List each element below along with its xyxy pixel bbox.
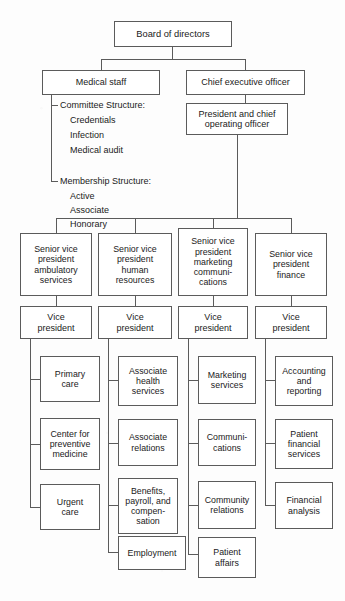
committee-structure-heading: Committee Structure: xyxy=(60,101,145,110)
node-president-coo[interactable]: President and chiefoperating officer xyxy=(186,103,288,135)
node-label: Chief executive officer xyxy=(189,77,302,87)
node-label: Urgentcare xyxy=(43,497,97,517)
connector-c2-stub-3 xyxy=(108,505,118,506)
connector-c4-stub-3 xyxy=(265,505,275,506)
node-patient-financial-services[interactable]: Patientfinancialservices xyxy=(275,419,333,469)
connector-to-medical-staff xyxy=(101,59,102,70)
node-label: Accountingandreporting xyxy=(278,366,330,397)
connector-c3-stub-4 xyxy=(188,554,198,555)
node-label: Vicepresident xyxy=(101,312,169,333)
connector-c4-stub-1 xyxy=(265,380,275,381)
connector-c4-stub-2 xyxy=(265,443,275,444)
connector-c3-stub-2 xyxy=(188,443,198,444)
connector-svp-drop-2 xyxy=(135,218,136,233)
org-chart: Board of directors Medical staff Chief e… xyxy=(0,0,345,601)
node-vp-ambulatory-services[interactable]: Vicepresident xyxy=(20,306,92,339)
node-vp-marketing-communications[interactable]: Vicepresident xyxy=(178,306,248,339)
node-board-of-directors[interactable]: Board of directors xyxy=(114,21,232,47)
node-label: Senior vicepresidenthumanresources xyxy=(101,244,169,285)
node-benefits-payroll-compensation[interactable]: Benefits,payroll, andcompen-sation xyxy=(118,478,178,534)
membership-item-active: Active xyxy=(70,192,95,201)
connector-c3-stub-1 xyxy=(188,380,198,381)
node-label: Vicepresident xyxy=(23,312,89,333)
connector-ceo-to-coo xyxy=(245,95,246,103)
connector-medical-staff-spine xyxy=(51,95,52,181)
node-label: Marketingservices xyxy=(201,370,253,390)
node-svp-ambulatory-services[interactable]: Senior vicepresidentambulatoryservices xyxy=(20,233,92,296)
node-marketing-services[interactable]: Marketingservices xyxy=(198,356,256,404)
node-label: President and chiefoperating officer xyxy=(189,109,285,130)
node-label: Associatehealthservices xyxy=(121,366,175,397)
node-label: Patientaffairs xyxy=(201,547,253,567)
committee-item-infection: Infection xyxy=(70,131,104,140)
node-svp-finance[interactable]: Senior vicepresidentfinance xyxy=(255,233,327,296)
node-associate-health-services[interactable]: Associatehealthservices xyxy=(118,356,178,406)
node-label: Senior vicepresidentambulatoryservices xyxy=(23,244,89,285)
node-label: Associaterelations xyxy=(121,432,175,452)
node-vp-finance[interactable]: Vicepresident xyxy=(255,306,327,339)
connector-c1-stub-2 xyxy=(30,444,40,445)
node-center-for-preventive-medicine[interactable]: Center forpreventivemedicine xyxy=(40,418,100,470)
committee-item-medical-audit: Medical audit xyxy=(70,146,123,155)
connector-c2-spine xyxy=(108,339,109,552)
node-communications[interactable]: Communi-cations xyxy=(198,419,256,466)
node-label: Financialanalysis xyxy=(278,495,330,515)
connector-c3-spine xyxy=(188,339,189,554)
connector-c2-stub-4 xyxy=(108,552,118,553)
connector-coo-stem xyxy=(237,135,238,218)
connector-c3-svp-to-vp xyxy=(213,296,214,306)
connector-c3-stub-3 xyxy=(188,505,198,506)
node-employment[interactable]: Employment xyxy=(118,536,186,570)
connector-svp-drop-3 xyxy=(213,218,214,228)
connector-to-ceo xyxy=(245,59,246,70)
connector-board-stem xyxy=(172,47,173,59)
connector-c2-stub-2 xyxy=(108,443,118,444)
membership-item-honorary: Honorary xyxy=(70,220,107,229)
node-label: Senior vicepresidentmarketingcommuni-cat… xyxy=(181,236,245,287)
node-urgent-care[interactable]: Urgentcare xyxy=(40,484,100,530)
node-community-relations[interactable]: Communityrelations xyxy=(198,481,256,529)
connector-c1-stub-3 xyxy=(30,507,40,508)
membership-item-associate: Associate xyxy=(70,206,109,215)
connector-membership-stub xyxy=(51,181,58,182)
node-label: Primarycare xyxy=(43,369,97,389)
connector-svp-drop-1 xyxy=(56,218,57,233)
node-label: Communityrelations xyxy=(201,495,253,515)
node-chief-executive-officer[interactable]: Chief executive officer xyxy=(186,70,305,95)
connector-c2-stub-1 xyxy=(108,380,118,381)
committee-item-credentials: Credentials xyxy=(70,116,116,125)
connector-c4-spine xyxy=(265,339,266,505)
connector-c4-svp-to-vp xyxy=(291,296,292,306)
node-svp-human-resources[interactable]: Senior vicepresidenthumanresources xyxy=(98,233,172,296)
node-svp-marketing-communications[interactable]: Senior vicepresidentmarketingcommuni-cat… xyxy=(178,228,248,296)
node-medical-staff[interactable]: Medical staff xyxy=(42,70,160,95)
connector-c1-svp-to-vp xyxy=(56,296,57,306)
node-label: Senior vicepresidentfinance xyxy=(258,249,324,280)
connector-c1-stub-1 xyxy=(30,379,40,380)
node-associate-relations[interactable]: Associaterelations xyxy=(118,419,178,466)
node-label: Benefits,payroll, andcompen-sation xyxy=(121,486,175,527)
node-label: Vicepresident xyxy=(181,312,245,333)
connector-svp-drop-4 xyxy=(291,218,292,233)
node-label: Employment xyxy=(121,548,183,558)
node-label: Vicepresident xyxy=(258,312,324,333)
node-patient-affairs[interactable]: Patientaffairs xyxy=(198,537,256,578)
membership-structure-heading: Membership Structure: xyxy=(60,177,151,186)
node-label: Board of directors xyxy=(117,29,229,40)
node-label: Patientfinancialservices xyxy=(278,429,330,460)
node-label: Communi-cations xyxy=(201,432,253,452)
node-label: Medical staff xyxy=(45,77,157,87)
node-vp-human-resources[interactable]: Vicepresident xyxy=(98,306,172,339)
connector-committee-stub xyxy=(51,105,58,106)
node-label: Center forpreventivemedicine xyxy=(43,429,97,460)
connector-c2-svp-to-vp xyxy=(135,296,136,306)
connector-c1-spine xyxy=(30,339,31,507)
connector-board-bus xyxy=(101,59,246,60)
node-financial-analysis[interactable]: Financialanalysis xyxy=(275,482,333,529)
node-accounting-and-reporting[interactable]: Accountingandreporting xyxy=(275,356,333,406)
node-primary-care[interactable]: Primarycare xyxy=(40,356,100,402)
